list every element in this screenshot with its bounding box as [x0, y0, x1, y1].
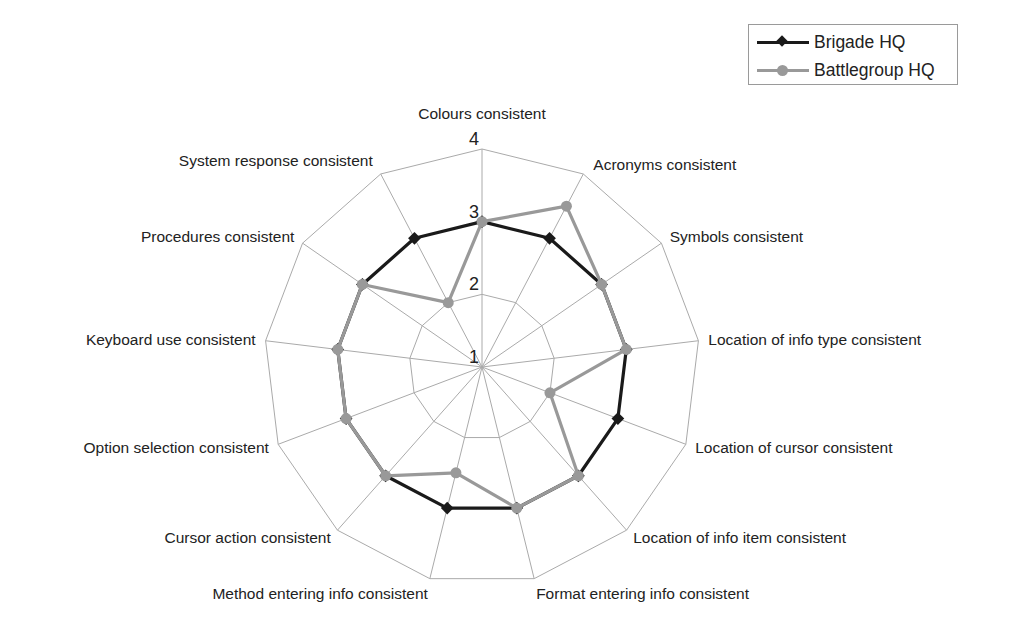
axis-label: System response consistent: [179, 152, 374, 169]
diamond-marker-icon: [757, 35, 809, 49]
axis-labels: Colours consistentAcronyms consistentSym…: [84, 105, 922, 602]
circle-marker: [341, 413, 352, 424]
axis-label: Option selection consistent: [84, 439, 270, 456]
circle-marker: [357, 279, 368, 290]
legend: Brigade HQ Battlegroup HQ: [748, 24, 958, 85]
circle-marker: [380, 470, 391, 481]
spoke: [278, 367, 482, 444]
spoke: [482, 367, 686, 444]
radar-chart: 1234 Colours consistentAcronyms consiste…: [0, 0, 1011, 640]
axis-label: Symbols consistent: [670, 228, 804, 245]
circle-marker: [561, 201, 572, 212]
axis-label: Colours consistent: [418, 105, 546, 122]
axis-label: Location of cursor consistent: [695, 439, 893, 456]
spoke: [337, 367, 482, 530]
radar-spokes: [266, 149, 699, 579]
circle-marker: [443, 297, 454, 308]
axis-label: Format entering info consistent: [536, 585, 749, 602]
circle-marker-icon: [757, 63, 809, 77]
legend-label: Battlegroup HQ: [814, 60, 935, 81]
axis-label: Location of info item consistent: [633, 529, 847, 546]
circle-marker: [573, 470, 584, 481]
circle-marker: [450, 467, 461, 478]
circle-marker: [332, 344, 343, 355]
circle-marker: [477, 216, 488, 227]
axis-label: Cursor action consistent: [165, 529, 332, 546]
circle-marker: [621, 344, 632, 355]
circle-marker: [596, 279, 607, 290]
tick-label: 2: [469, 274, 479, 294]
legend-label: Brigade HQ: [814, 32, 905, 53]
diamond-marker: [441, 502, 454, 515]
spoke: [381, 174, 482, 367]
circle-marker: [511, 503, 522, 514]
axis-label: Acronyms consistent: [593, 156, 737, 173]
legend-item-battlegroup-hq: Battlegroup HQ: [749, 56, 935, 84]
tick-label: 1: [469, 347, 479, 367]
axis-label: Method entering info consistent: [212, 585, 428, 602]
axis-label: Procedures consistent: [141, 228, 295, 245]
legend-item-brigade-hq: Brigade HQ: [749, 28, 905, 56]
circle-marker: [544, 387, 555, 398]
spoke: [482, 367, 534, 579]
axis-label: Location of info type consistent: [708, 331, 922, 348]
axis-label: Keyboard use consistent: [86, 331, 256, 348]
tick-label: 4: [469, 129, 479, 149]
